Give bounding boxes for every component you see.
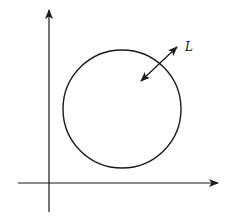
diagram-canvas: L — [0, 0, 226, 221]
label-L: L — [184, 40, 193, 54]
circle — [63, 50, 181, 168]
